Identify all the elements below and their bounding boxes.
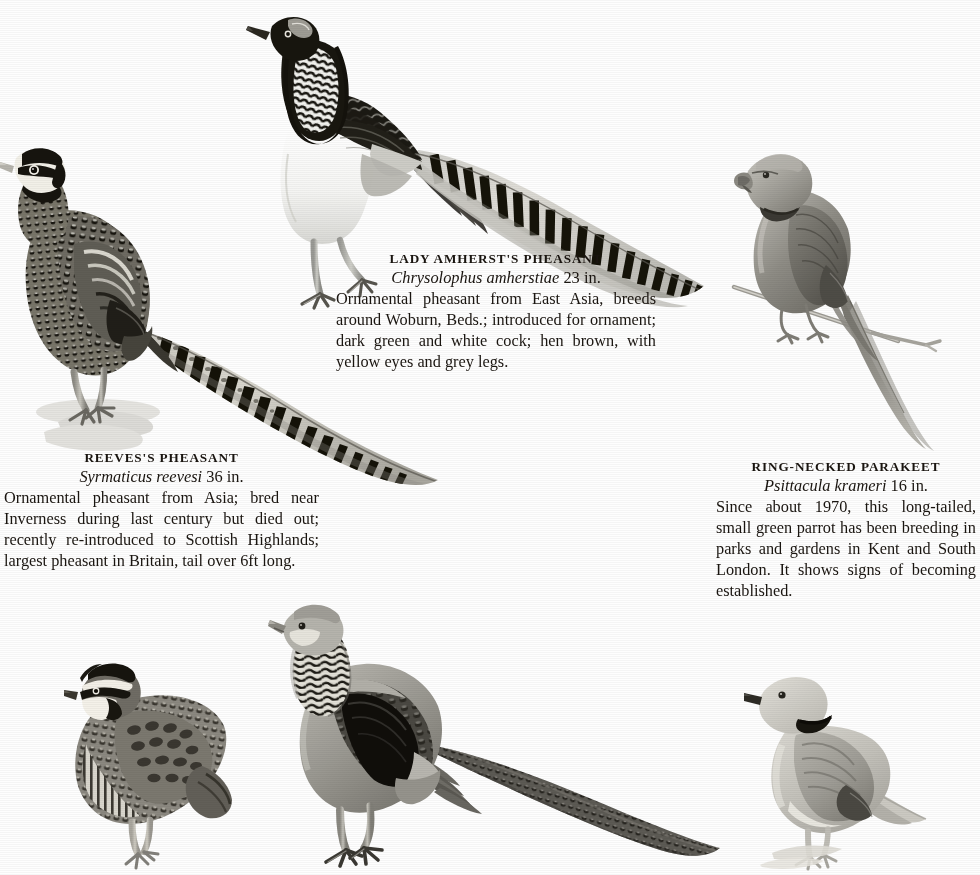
latin-name: Chrysolophus amherstiae (391, 268, 559, 287)
dove-head (744, 677, 832, 734)
latin-name: Syrmaticus reevesi (79, 467, 202, 486)
caption-reeves-pheasant: REEVES'S PHEASANT Syrmaticus reevesi 36 … (4, 450, 319, 572)
bobwhite-legs (126, 820, 158, 868)
latin-name-line: Chrysolophus amherstiae 23 in. (336, 268, 656, 289)
caption-lady-amherst-pheasant: LADY AMHERST'S PHEASANT Chrysolophus amh… (336, 251, 656, 373)
amherst-head (246, 17, 319, 61)
common-name: RING-NECKED PARAKEET (716, 459, 976, 475)
plate-canvas: LADY AMHERST'S PHEASANT Chrysolophus amh… (0, 0, 980, 875)
length-value: 23 in. (563, 268, 600, 287)
ring-necked-parakeet-illustration (730, 145, 980, 455)
length-value: 36 in. (206, 467, 243, 486)
common-name: LADY AMHERST'S PHEASANT (336, 251, 656, 267)
latin-name-line: Syrmaticus reevesi 36 in. (4, 467, 319, 488)
parakeet-tail (830, 291, 934, 451)
collared-dove-illustration (742, 665, 942, 875)
reeves-head (0, 148, 65, 193)
latin-name-line: Psittacula krameri 16 in. (716, 476, 976, 497)
caption-ring-necked-parakeet: RING-NECKED PARAKEET Psittacula krameri … (716, 459, 976, 602)
cheer-head (268, 605, 344, 656)
description-text: Ornamental pheasant from East Asia, bree… (336, 289, 656, 373)
bobwhite-quail-illustration (62, 634, 272, 874)
dove-legs (760, 829, 842, 869)
cheer-legs (326, 806, 382, 866)
golden-pheasant-hen-illustration (268, 600, 738, 875)
latin-name: Psittacula krameri (764, 476, 886, 495)
description-text: Since about 1970, this long-tailed, smal… (716, 497, 976, 602)
bobwhite-head (64, 664, 141, 720)
length-value: 16 in. (891, 476, 928, 495)
dove-body (771, 725, 890, 833)
description-text: Ornamental pheasant from Asia; bred near… (4, 488, 319, 572)
common-name: REEVES'S PHEASANT (4, 450, 319, 466)
